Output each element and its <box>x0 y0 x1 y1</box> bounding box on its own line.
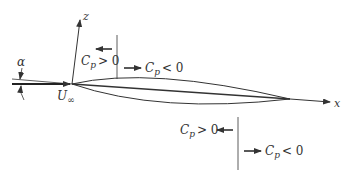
lower-cp-positive-label: Cp> 0 <box>180 123 218 139</box>
x-axis-label: x <box>334 97 341 110</box>
airfoil-diagram: α z x U∞ Cp> 0 Cp< 0 Cp> 0 Cp< 0 <box>0 0 347 179</box>
upper-cp-negative-label: Cp< 0 <box>145 61 183 77</box>
x-axis <box>290 99 330 102</box>
alpha-arrow-bottom <box>21 86 24 100</box>
alpha-label: α <box>17 55 25 69</box>
z-axis-label: z <box>82 10 89 23</box>
upper-cp-positive-label: Cp> 0 <box>81 54 119 70</box>
freestream-label: U∞ <box>57 89 75 105</box>
alpha-arrow-top <box>20 68 22 79</box>
lower-cp-negative-label: Cp< 0 <box>265 144 303 160</box>
z-axis <box>72 20 80 84</box>
airfoil-upper-surface <box>72 78 290 99</box>
